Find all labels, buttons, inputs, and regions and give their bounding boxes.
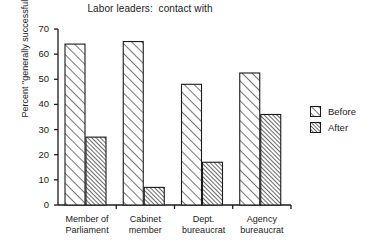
bar-before-3 — [240, 73, 260, 205]
legend-label-before: Before — [328, 106, 356, 117]
bar-before-2 — [182, 84, 202, 205]
bar-after-2 — [203, 162, 223, 205]
bar-series-group — [65, 42, 281, 205]
y-tick-label: 0 — [31, 200, 49, 210]
y-tick-label: 10 — [31, 175, 49, 185]
y-tick-label: 30 — [31, 125, 49, 135]
bar-before-1 — [123, 42, 143, 205]
legend-swatch-after — [310, 122, 321, 133]
legend-item-before[interactable]: Before — [310, 106, 356, 117]
bar-after-1 — [144, 187, 164, 205]
legend-item-after[interactable]: After — [310, 122, 348, 133]
y-tick-label: 20 — [31, 150, 49, 160]
legend-swatch-before — [310, 106, 321, 117]
bar-after-0 — [86, 137, 106, 205]
y-tick-label: 60 — [31, 49, 49, 59]
bar-after-3 — [261, 114, 281, 205]
bar-chart: Labor leaders: contact with Percent "gen… — [0, 0, 380, 245]
x-category-label: Agency bureaucrat — [227, 214, 297, 236]
bar-before-0 — [65, 44, 85, 205]
y-tick-label: 70 — [31, 24, 49, 34]
y-tick-label: 50 — [31, 74, 49, 84]
y-tick-label: 40 — [31, 99, 49, 109]
legend-label-after: After — [328, 122, 348, 133]
